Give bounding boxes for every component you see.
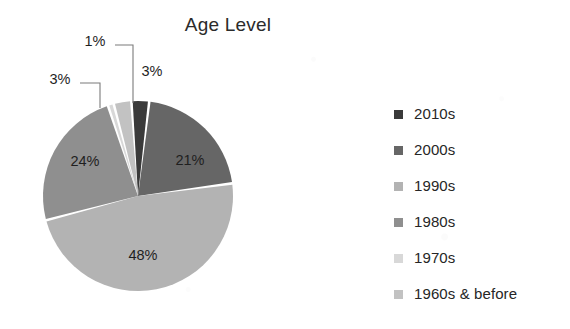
legend-item[interactable]: 2000s (394, 132, 564, 168)
legend-item[interactable]: 1970s (394, 240, 564, 276)
pie-leader-line-group (80, 45, 133, 108)
legend-item-label: 1980s (414, 204, 455, 240)
legend-item[interactable]: 1960s & before (394, 276, 564, 312)
slice-value-label: 1% (85, 33, 106, 49)
legend-swatch-icon (394, 146, 403, 155)
slice-value-label: 3% (50, 71, 71, 87)
legend-item-label: 1960s & before (414, 276, 517, 312)
legend-swatch-icon (394, 182, 403, 191)
legend-item-label: 1990s (414, 168, 455, 204)
legend-swatch-icon (394, 290, 403, 299)
legend-item[interactable]: 1990s (394, 168, 564, 204)
slice-value-label: 3% (142, 63, 163, 79)
legend-item-label: 2000s (414, 132, 455, 168)
slice-value-label: 21% (175, 152, 204, 168)
slice-value-label: 48% (128, 247, 157, 263)
chart-legend: 2010s2000s1990s1980s1970s1960s & before (394, 96, 564, 312)
leader-line (80, 83, 100, 108)
legend-item-label: 1970s (414, 240, 455, 276)
legend-swatch-icon (394, 254, 403, 263)
leader-line (115, 45, 133, 103)
pie-slice-2000s (138, 102, 232, 196)
legend-item[interactable]: 1980s (394, 204, 564, 240)
legend-swatch-icon (394, 218, 403, 227)
legend-swatch-icon (394, 110, 403, 119)
pie-chart-figure: Age Level 3%21%48%24%1%3% 2010s2000s1990… (0, 0, 570, 329)
legend-item-label: 2010s (414, 96, 455, 132)
legend-item[interactable]: 2010s (394, 96, 564, 132)
slice-value-label: 24% (70, 153, 99, 169)
